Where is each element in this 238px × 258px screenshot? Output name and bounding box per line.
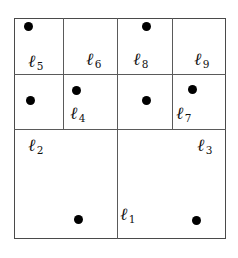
region-label-subscript: 9 [203, 58, 210, 70]
region-label-l5: ℓ5 [29, 53, 44, 72]
region-label-l7: ℓ7 [177, 105, 192, 124]
region-label-l9: ℓ9 [195, 51, 210, 70]
region-label-subscript: 5 [37, 60, 44, 72]
script-ell-glyph: ℓ [87, 49, 95, 69]
point-in-l8-top [142, 22, 151, 31]
script-ell-glyph: ℓ [134, 49, 142, 69]
region-label-subscript: 2 [37, 144, 44, 156]
script-ell-glyph: ℓ [71, 103, 79, 123]
region-label-subscript: 7 [185, 112, 192, 124]
script-ell-glyph: ℓ [29, 135, 37, 155]
point-in-l4 [72, 86, 81, 95]
region-label-l4: ℓ4 [71, 105, 86, 124]
region-label-l2: ℓ2 [29, 137, 44, 156]
region-label-l8: ℓ8 [134, 51, 149, 70]
point-in-l7 [188, 85, 197, 94]
point-in-l5-lower [26, 96, 35, 105]
region-label-subscript: 6 [95, 58, 102, 70]
script-ell-glyph: ℓ [195, 49, 203, 69]
point-in-l3 [192, 216, 201, 225]
point-in-l2 [74, 215, 83, 224]
point-in-l5-top [24, 22, 33, 31]
region-label-l6: ℓ6 [87, 51, 102, 70]
region-label-subscript: 8 [142, 58, 149, 70]
region-label-subscript: 4 [79, 112, 86, 124]
region-label-subscript: 1 [129, 213, 136, 225]
partition-figure: ℓ1ℓ2ℓ3ℓ4ℓ5ℓ6ℓ7ℓ8ℓ9 [0, 0, 238, 258]
script-ell-glyph: ℓ [29, 51, 37, 71]
point-in-l8-lower [142, 96, 151, 105]
region-label-l3: ℓ3 [198, 137, 213, 156]
region-label-subscript: 3 [206, 144, 213, 156]
script-ell-glyph: ℓ [198, 135, 206, 155]
script-ell-glyph: ℓ [121, 204, 129, 224]
region-label-l1: ℓ1 [121, 206, 136, 225]
script-ell-glyph: ℓ [177, 103, 185, 123]
